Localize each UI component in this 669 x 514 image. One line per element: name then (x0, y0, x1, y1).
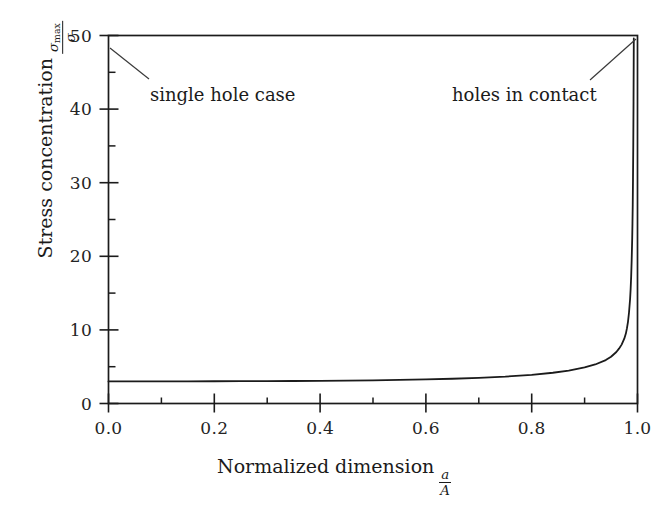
sigma-symbol: σ (46, 43, 61, 52)
y-minor-ticks (109, 72, 116, 366)
annotation-single-hole-case: single hole case (150, 84, 296, 105)
x-tick-label-5: 1.0 (624, 418, 652, 438)
x-tick-label-2: 0.4 (306, 418, 334, 438)
y-axis-title-text: Stress concentration (34, 58, 56, 258)
x-axis-fraction-denominator: A (438, 483, 452, 498)
x-axis-title-fraction: aA (438, 468, 452, 498)
stress-concentration-figure: 0.0 0.2 0.4 0.6 0.8 1.0 0 10 20 30 40 50… (0, 0, 669, 514)
x-axis-title-text: Normalized dimension (217, 455, 434, 477)
x-tick-label-0: 0.0 (95, 418, 123, 438)
y-axis-title-fraction: σmaxσ (47, 21, 78, 54)
leader-line-holes-in-contact (590, 39, 636, 80)
x-major-ticks-outward (109, 404, 638, 413)
x-tick-label-4: 0.8 (518, 418, 546, 438)
leader-line-single-hole (110, 48, 149, 79)
y-tick-label-10: 10 (70, 320, 92, 340)
annotation-holes-in-contact: holes in contact (452, 84, 597, 105)
y-tick-label-0: 0 (81, 394, 92, 414)
x-axis-title: Normalized dimensionaA (0, 455, 669, 498)
x-tick-label-1: 0.2 (200, 418, 228, 438)
y-major-ticks-outward (100, 36, 109, 404)
y-axis-fraction-denominator: σ (63, 31, 78, 44)
x-minor-ticks (161, 398, 584, 404)
x-axis-fraction-numerator: a (439, 468, 451, 484)
y-axis-fraction-numerator: σmax (47, 21, 64, 54)
x-tick-label-3: 0.6 (412, 418, 440, 438)
sigma-subscript: max (51, 23, 62, 43)
y-axis-title: Stress concentrationσmaxσ (34, 0, 78, 290)
